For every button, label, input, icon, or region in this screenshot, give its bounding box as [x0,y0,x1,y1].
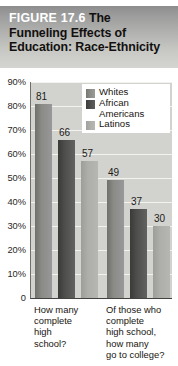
bar-value-label: 30 [154,214,165,224]
figure-container: FIGURE 17.6 The Funneling Effects of Edu… [0,0,178,366]
y-axis-tick-label: 70% [7,126,26,135]
legend-swatch-african-americans-icon [86,100,95,109]
legend-item-latinos: Latinos [86,119,165,130]
legend-label-latinos: Latinos [99,119,130,130]
figure-title-line-2: Funneling Effects of [9,26,171,41]
chart-legend: Whites African Americans Latinos [82,84,170,133]
bar [130,209,147,298]
x-axis: How many complete high school?Of those w… [30,304,178,366]
bar [81,161,98,298]
figure-caption-band: FIGURE 17.6 The Funneling Effects of Edu… [0,6,178,68]
bar-value-label: 81 [36,92,47,102]
plot-area: 816657493730 Whites African Americans La… [30,82,172,299]
y-axis: 90%80%70%60%50%40%30%20%10%0 [0,68,28,300]
legend-item-african-americans: African Americans [86,98,165,119]
bar [153,226,170,298]
bar-chart: 90%80%70%60%50%40%30%20%10%0 81665749373… [0,68,178,366]
bar-value-label: 57 [82,149,93,159]
y-axis-tick-label: 90% [7,78,26,87]
y-axis-tick-label: 40% [7,198,26,207]
figure-caption-line-1: FIGURE 17.6 The [9,11,171,26]
figure-title-line-1: The [89,11,111,25]
bar-value-label: 37 [131,197,142,207]
figure-title-line-3: Education: Race-Ethnicity [9,40,171,55]
y-axis-tick-label: 0 [21,294,26,303]
legend-label-african-americans: African Americans [99,98,144,119]
legend-label-whites: Whites [99,87,128,98]
x-axis-category-label: Of those who complete high school, how m… [106,304,178,360]
legend-swatch-whites-icon [86,89,95,98]
y-axis-tick-label: 20% [7,246,26,255]
y-axis-tick-label: 30% [7,222,26,231]
bar [35,104,52,298]
y-axis-tick-label: 80% [7,102,26,111]
figure-number-label: FIGURE 17.6 [9,11,86,25]
bar [58,140,75,298]
bar-value-label: 49 [108,168,119,178]
legend-swatch-latinos-icon [86,121,95,130]
y-axis-tick-label: 50% [7,174,26,183]
bar [107,180,124,298]
y-axis-tick-label: 60% [7,150,26,159]
y-axis-tick-label: 10% [7,270,26,279]
x-axis-category-label: How many complete high school? [34,304,98,349]
bar-value-label: 66 [59,128,70,138]
